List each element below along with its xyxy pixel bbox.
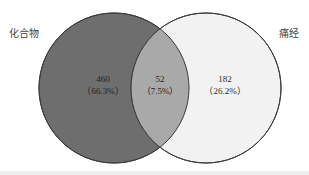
- region-overlap: 52 （7.5%）: [142, 73, 179, 97]
- region-compounds-only: 460 （66.3%）: [82, 73, 123, 97]
- set-label-dysmenorrhea: 痛经: [279, 25, 299, 40]
- region-count: 52: [142, 73, 179, 85]
- region-count: 460: [82, 73, 123, 85]
- bottom-strip: [0, 171, 309, 175]
- region-dysmenorrhea-only: 182 （26.2%）: [204, 73, 245, 97]
- set-label-compounds: 化合物: [9, 25, 39, 40]
- region-percent: （26.2%）: [204, 85, 245, 97]
- region-percent: （7.5%）: [142, 85, 179, 97]
- region-count: 182: [204, 73, 245, 85]
- region-percent: （66.3%）: [82, 85, 123, 97]
